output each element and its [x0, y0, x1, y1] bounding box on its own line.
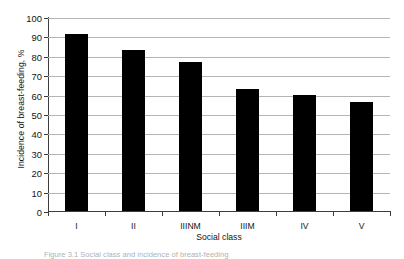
- y-tick-label-40: 40: [32, 129, 42, 140]
- y-tick-label-50: 50: [32, 110, 42, 121]
- y-tick-mark-40: [44, 134, 48, 135]
- x-tick-label-IV: IV: [300, 221, 308, 231]
- y-tick-label-0: 0: [37, 207, 42, 218]
- x-tick-label-IIIM: IIIM: [240, 221, 254, 231]
- x-tick-mark-0: [48, 212, 49, 216]
- bar-IIINM: [179, 62, 202, 211]
- bar-I: [65, 34, 88, 211]
- x-axis-title: Social class: [48, 232, 390, 242]
- gridline-30: [48, 154, 390, 155]
- figure-caption: Figure 3.1 Social class and incidence of…: [44, 250, 400, 259]
- gridline-10: [48, 193, 390, 194]
- gridline-40: [48, 134, 390, 135]
- y-tick-label-80: 80: [32, 51, 42, 62]
- y-tick-mark-80: [44, 57, 48, 58]
- gridline-100: [48, 18, 390, 19]
- gridline-60: [48, 96, 390, 97]
- x-tick-label-II: II: [131, 221, 136, 231]
- x-tick-mark-6: [390, 212, 391, 216]
- bar-II: [122, 50, 145, 211]
- gridline-90: [48, 37, 390, 38]
- y-tick-label-70: 70: [32, 71, 42, 82]
- y-tick-label-30: 30: [32, 148, 42, 159]
- x-tick-mark-5: [333, 212, 334, 216]
- y-tick-mark-50: [44, 115, 48, 116]
- y-tick-mark-60: [44, 96, 48, 97]
- x-tick-mark-1: [105, 212, 106, 216]
- x-tick-mark-4: [276, 212, 277, 216]
- x-tick-label-IIINM: IIINM: [180, 221, 201, 231]
- y-tick-mark-20: [44, 173, 48, 174]
- y-tick-label-10: 10: [32, 187, 42, 198]
- x-tick-mark-3: [219, 212, 220, 216]
- y-tick-label-60: 60: [32, 90, 42, 101]
- y-tick-mark-30: [44, 154, 48, 155]
- gridline-50: [48, 115, 390, 116]
- y-tick-label-20: 20: [32, 168, 42, 179]
- y-tick-mark-100: [44, 18, 48, 19]
- y-tick-label-100: 100: [26, 13, 42, 24]
- y-tick-mark-10: [44, 193, 48, 194]
- gridline-20: [48, 173, 390, 174]
- x-tick-label-I: I: [75, 221, 77, 231]
- bar-IV: [293, 95, 316, 211]
- bar-V: [350, 102, 373, 211]
- x-tick-mark-2: [162, 212, 163, 216]
- gridline-70: [48, 76, 390, 77]
- y-axis-title: Incidence of breast-feeding, %: [16, 9, 26, 209]
- x-tick-label-V: V: [359, 221, 365, 231]
- gridline-80: [48, 57, 390, 58]
- y-tick-mark-90: [44, 37, 48, 38]
- y-tick-mark-70: [44, 76, 48, 77]
- y-tick-label-90: 90: [32, 32, 42, 43]
- bar-IIIM: [236, 89, 259, 211]
- plot-area: 0102030405060708090100 IIIIIINMIIIMIVV: [48, 18, 390, 212]
